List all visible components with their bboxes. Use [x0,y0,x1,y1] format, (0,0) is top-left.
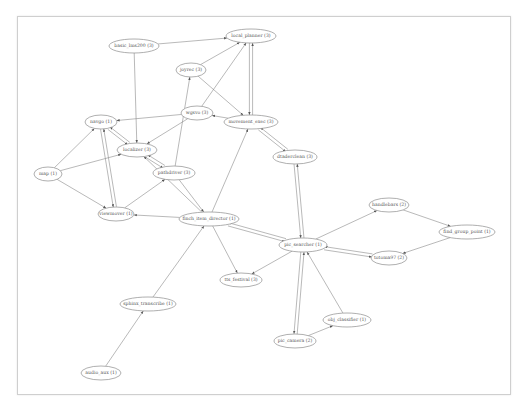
edge-pic_searcher-to-finch_item_director [229,223,286,239]
node-handlebars[interactable]: handlebars (2) [369,198,409,212]
edge-viewmover-to-navgo [104,129,117,207]
ros-node-graph: basic_lms200 (3)local_planner (3)joyrec … [0,0,531,404]
edge-handlebars-to-find_group_point [403,210,450,226]
node-pic_camera[interactable]: pic_camera (2) [274,334,316,348]
edge-viewmover-to-pathdriver [125,179,165,208]
node-totoma97[interactable]: totoma97 (2) [371,251,407,265]
edge-finch_item_director-to-viewmover [134,215,180,217]
edge-find_group_point-to-totoma97 [403,238,451,254]
node-localizer[interactable]: localizer (3) [117,143,157,157]
edge-audio_aux-to-sphinx_transcribe [106,311,144,366]
edge-wgsvo-to-local_planner [202,43,246,106]
edge-finch_item_director-to-movement_exec [212,129,248,212]
edge-map-to-viewmover [57,179,106,208]
edge-obj_classifier-to-pic_searcher [307,252,343,313]
node-label: localizer (3) [123,147,151,152]
node-pic_searcher[interactable]: pic_searcher (1) [279,238,327,252]
edge-totoma97-to-pic_searcher [325,247,373,254]
edge-pic_searcher-to-dtaderclean [297,164,304,238]
edge-dtaderclean-to-pic_searcher [294,164,301,238]
node-label: map (1) [39,171,57,176]
node-tts_festival[interactable]: tts_festival (3) [220,273,262,287]
edge-navgo-to-localizer [108,129,128,145]
node-layer: basic_lms200 (3)local_planner (3)joyrec … [34,29,495,380]
edge-sphinx_transcribe-to-finch_item_director [153,226,204,297]
node-label: handlebars (2) [372,202,406,207]
edge-pic_searcher-to-handlebars [316,211,377,239]
node-find_group_point[interactable]: find_group_point (1) [439,225,495,239]
node-movement_exec[interactable]: movement_exec (3) [224,115,278,129]
node-viewmover[interactable]: viewmover (1) [98,207,134,221]
edge-pathdriver-to-joyrec [175,77,190,166]
node-wgsvo[interactable]: wgsvo (3) [181,106,213,120]
node-navgo[interactable]: navgo (1) [85,115,117,129]
node-local_planner[interactable]: local_planner (3) [226,29,276,43]
node-label: dtaderclean (3) [277,154,313,159]
edge-dtaderclean-to-movement_exec [260,127,287,149]
node-finch_item_director[interactable]: finch_item_director (1) [179,212,239,226]
edge-joyrec-to-local_planner [201,42,240,64]
edge-pic_camera-to-pic_searcher [297,252,304,334]
edge-finch_item_director-to-pic_searcher [228,226,285,242]
edge-localizer-to-navgo [110,127,130,143]
node-dtaderclean[interactable]: dtaderclean (3) [273,150,317,164]
edge-movement_exec-to-dtaderclean [258,130,285,152]
node-map[interactable]: map (1) [34,167,62,181]
node-sphinx_transcribe[interactable]: sphinx_transcribe (1) [120,297,176,311]
edge-navgo-to-viewmover [101,129,114,207]
edge-pic_camera-to-obj_classifier [308,326,333,336]
node-obj_classifier[interactable]: obj_classifier (1) [323,313,371,327]
edge-map-to-localizer [60,154,121,170]
node-basic_lms200[interactable]: basic_lms200 (3) [109,39,159,53]
node-label: pathdriver (3) [158,170,191,175]
edge-wgsvo-to-navgo [117,114,182,120]
node-joyrec[interactable]: joyrec (3) [176,63,206,77]
edge-basic_lms200-to-local_planner [158,38,227,44]
node-label: viewmover (1) [98,211,133,216]
node-pathdriver[interactable]: pathdriver (3) [153,166,195,180]
edge-pathdriver-to-finch_item_director [179,180,204,212]
edge-movement_exec-to-wgsvo [212,115,228,118]
edge-wgsvo-to-localizer [147,119,188,144]
edge-pic_searcher-to-pic_camera [294,252,301,334]
edge-finch_item_director-to-tts_festival [213,226,238,273]
edge-basic_lms200-to-localizer [134,53,137,143]
edge-pic_searcher-to-totoma97 [324,250,372,257]
node-label: totoma97 (2) [374,255,404,260]
node-audio_aux[interactable]: audio_aux (1) [81,366,121,380]
edge-pic_searcher-to-tts_festival [252,251,292,274]
edge-map-to-navgo [54,128,94,167]
edge-finch_item_director-to-localizer [144,157,202,213]
